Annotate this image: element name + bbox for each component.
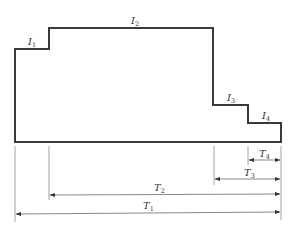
stepped-profile-diagram: I1 I2 I3 I4 T4 T3 T2 T1 (0, 0, 298, 237)
level-label-i4: I4 (261, 110, 270, 123)
duration-label-t3: T3 (244, 167, 255, 180)
duration-label-t4: T4 (259, 148, 270, 161)
level-label-i2: I2 (130, 15, 139, 28)
level-label-i1: I1 (27, 36, 36, 49)
duration-label-t2: T2 (154, 182, 165, 195)
dimension-line-t1 (16, 212, 280, 214)
duration-label-t1: T1 (143, 200, 154, 213)
load-profile-outline (15, 28, 281, 142)
dimension-line-t2 (50, 194, 280, 195)
level-label-i3: I3 (226, 92, 235, 105)
